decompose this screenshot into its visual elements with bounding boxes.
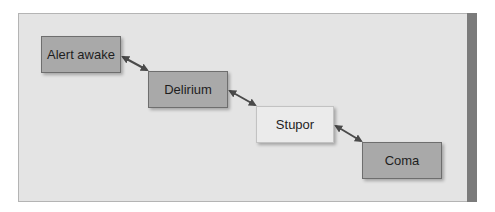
node-label: Alert awake: [47, 47, 115, 62]
node-label: Delirium: [164, 82, 212, 97]
node-coma: Coma: [362, 142, 442, 179]
node-delirium: Delirium: [148, 71, 228, 108]
node-stupor: Stupor: [256, 106, 334, 143]
panel-right-stripe: [467, 13, 477, 202]
node-label: Stupor: [276, 117, 314, 132]
node-alert-awake: Alert awake: [41, 36, 121, 73]
node-label: Coma: [385, 153, 420, 168]
